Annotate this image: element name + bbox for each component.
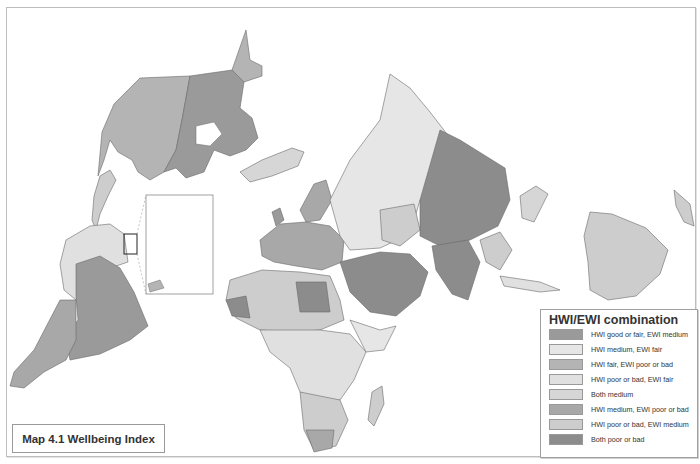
region-middle-east [340,252,428,316]
legend-swatch [549,419,583,430]
region-south-africa [306,430,334,452]
region-brazil [66,256,148,360]
region-madagascar [368,386,384,426]
region-greenland [240,148,304,182]
legend-label: HWI poor or bad, EWI fair [591,375,673,384]
legend-item: HWI medium, EWI poor or bad [549,403,699,416]
region-australia [584,212,668,300]
region-central-africa [260,330,366,404]
legend-title: HWI/EWI combination [549,313,678,327]
legend-label: HWI poor or bad, EWI medium [591,420,689,429]
legend-item: HWI poor or bad, EWI fair [549,373,699,386]
region-kazakhstan [380,204,420,246]
legend-swatch [549,359,583,370]
legend-swatch [549,329,583,340]
region-southeast-asia [480,232,512,270]
legend-label: Both poor or bad [591,435,645,444]
legend-swatch [549,404,583,415]
legend-item: HWI poor or bad, EWI medium [549,418,699,431]
map-legend: HWI/EWI combination HWI good or fair, EW… [540,309,698,458]
legend-label: Both medium [591,390,633,399]
region-central-america [92,170,116,230]
region-libya [296,282,330,312]
caribbean-inset [146,195,213,294]
map-title: Map 4.1 Wellbeing Index [22,433,155,445]
legend-swatch [549,434,583,445]
region-scandinavia [300,180,332,222]
legend-item: HWI fair, EWI poor or bad [549,358,699,371]
legend-item: HWI medium, EWI fair [549,343,699,356]
region-new-zealand [674,190,694,226]
legend-label: HWI good or fair, EWI medium [591,330,688,339]
region-indonesia [500,276,560,292]
region-europe [260,222,344,270]
legend-swatch [549,389,583,400]
legend-label: HWI medium, EWI poor or bad [591,405,689,414]
legend-item: Both medium [549,388,699,401]
legend-label: HWI medium, EWI fair [591,345,662,354]
legend-label: HWI fair, EWI poor or bad [591,360,673,369]
map-title-box: Map 4.1 Wellbeing Index [12,424,165,453]
region-alaska [232,30,262,82]
legend-swatch [549,344,583,355]
region-south-america-south [10,300,76,388]
region-uk [272,208,284,226]
region-india [432,240,480,300]
legend-item: HWI good or fair, EWI medium [549,328,699,341]
legend-item: Both poor or bad [549,433,699,446]
region-japan [520,186,548,222]
legend-swatch [549,374,583,385]
region-mauritania [226,296,250,318]
